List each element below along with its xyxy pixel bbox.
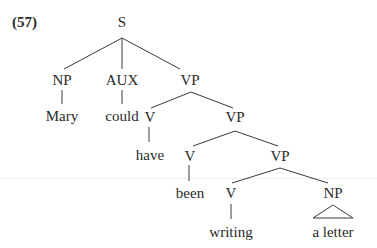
syntax-tree-diagram: (57) SNPAUXVPMarycouldVVPhaveVVPbeenVNPw… xyxy=(0,0,377,248)
tree-node-could: could xyxy=(105,109,138,124)
tree-node-writing: writing xyxy=(209,225,252,240)
tree-edges xyxy=(0,0,377,248)
tree-edge-vp3-v3 xyxy=(232,168,280,183)
tree-node-been: been xyxy=(176,186,204,201)
tree-node-v3: V xyxy=(226,186,237,201)
tree-edge-vp2-vp3 xyxy=(235,131,278,146)
tree-edge-s-np1 xyxy=(64,38,122,69)
tree-node-s: S xyxy=(118,15,126,30)
tree-edge-vp2-v2 xyxy=(193,131,235,146)
tree-node-np1: NP xyxy=(52,73,71,88)
tree-node-np2: NP xyxy=(323,186,342,201)
tree-node-aux: AUX xyxy=(106,73,139,88)
tree-node-v1: V xyxy=(145,110,156,125)
tree-node-vp1: VP xyxy=(180,73,199,88)
tree-node-have: have xyxy=(136,148,164,163)
tree-node-mary: Mary xyxy=(46,109,79,124)
tree-edge-vp1-v1 xyxy=(151,92,191,108)
tree-node-vp3: VP xyxy=(270,149,289,164)
tree-node-v2: V xyxy=(185,149,196,164)
tree-node-aletter: a letter xyxy=(312,225,353,240)
tree-node-vp2: VP xyxy=(225,110,244,125)
tree-edge-vp1-vp2 xyxy=(191,92,233,108)
triangle-abbreviation-np2 xyxy=(313,205,353,218)
tree-edge-s-vp1 xyxy=(122,38,180,69)
tree-edge-vp3-np2 xyxy=(280,168,328,183)
